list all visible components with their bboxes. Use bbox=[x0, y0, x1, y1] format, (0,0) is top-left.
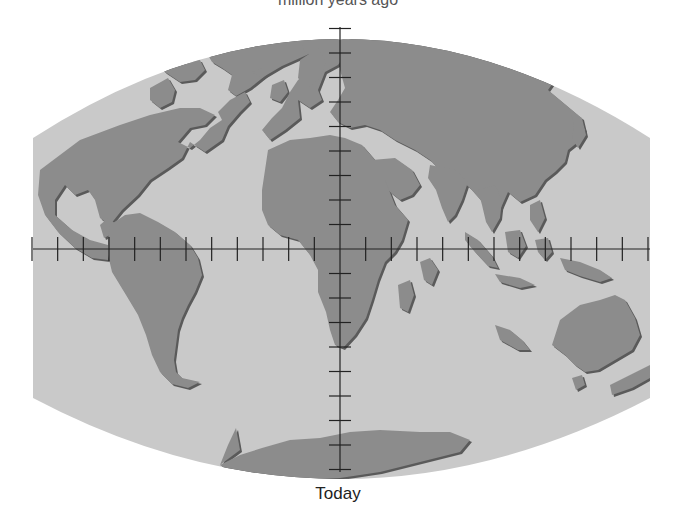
bottom-caption: Today bbox=[0, 484, 676, 504]
world-map bbox=[0, 0, 676, 517]
